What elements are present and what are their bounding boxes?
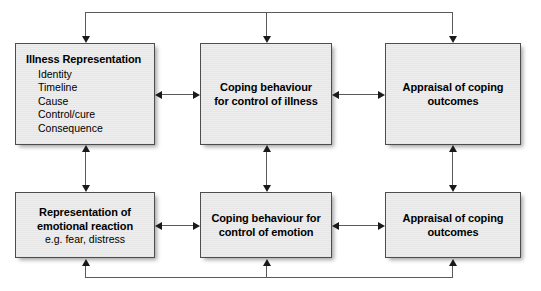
connector-illness-rep-to-coping-illness	[162, 94, 193, 95]
box-appraisal-coping-outcomes-top[interactable]: Appraisal of coping outcomes	[385, 43, 521, 145]
appraisal-top-line-1: Appraisal of coping	[403, 80, 504, 94]
top-feedback-drop-left	[85, 12, 86, 37]
coping-emotion-line-2: control of emotion	[219, 225, 314, 239]
coping-illness-line-2: for control of illness	[214, 94, 318, 108]
list-item: Identity	[38, 68, 103, 81]
arrow-right-coping-emotion-appraisal-bottom	[378, 222, 385, 230]
arrow-down-coping-illness-coping-emotion	[263, 185, 271, 192]
top-feedback-bus-riser-right	[452, 12, 453, 34]
bottom-feedback-rise-middle	[266, 266, 267, 278]
arrow-up-coping-illness-coping-emotion	[263, 145, 271, 152]
arrow-down-illness-rep-emotional-rep	[82, 185, 90, 192]
connector-coping-emotion-to-appraisal-bottom	[339, 225, 378, 226]
appraisal-bottom-line-2: outcomes	[427, 225, 478, 239]
bottom-feedback-bus-riser-right	[452, 265, 453, 278]
arrow-down-appraisal-top-bottom	[449, 185, 457, 192]
list-item: Control/cure	[38, 108, 103, 121]
arrow-left-emotional-rep-coping-emotion	[155, 222, 162, 230]
connector-coping-illness-to-coping-emotion	[266, 152, 267, 185]
connector-coping-illness-to-appraisal-top	[339, 94, 378, 95]
arrow-right-emotional-rep-coping-emotion	[193, 222, 200, 230]
bottom-feedback-arrow-into-emotional-rep	[82, 259, 90, 266]
arrow-left-illness-rep-coping-illness	[155, 91, 162, 99]
arrow-up-appraisal-top-bottom	[449, 145, 457, 152]
connector-emotional-rep-to-coping-emotion	[162, 225, 193, 226]
bottom-feedback-rise-left	[85, 266, 86, 278]
diagram-canvas: Illness Representation Identity Timeline…	[0, 0, 541, 291]
emotional-reaction-line-2: emotional reaction	[37, 219, 133, 233]
connector-illness-rep-to-emotional-rep	[85, 152, 86, 185]
box-representation-emotional-reaction[interactable]: Representation of emotional reaction e.g…	[15, 192, 155, 258]
top-feedback-arrow-into-illness-representation	[82, 36, 90, 43]
arrow-up-illness-rep-emotional-rep	[82, 145, 90, 152]
list-item: Timeline	[38, 81, 103, 94]
arrow-left-coping-illness-appraisal-top	[332, 91, 339, 99]
box-coping-behaviour-emotion[interactable]: Coping behaviour for control of emotion	[200, 192, 332, 258]
bottom-feedback-arrow-into-appraisal-bottom	[449, 259, 457, 266]
top-feedback-drop-middle	[266, 12, 267, 37]
top-feedback-arrow-into-coping-illness	[263, 36, 271, 43]
appraisal-bottom-line-1: Appraisal of coping	[403, 211, 504, 225]
illness-representation-title: Illness Representation	[16, 53, 141, 66]
box-appraisal-coping-outcomes-bottom[interactable]: Appraisal of coping outcomes	[385, 192, 521, 258]
list-item: Consequence	[38, 122, 103, 135]
connector-appraisal-top-to-appraisal-bottom	[452, 152, 453, 185]
arrow-right-illness-rep-coping-illness	[193, 91, 200, 99]
arrow-right-coping-illness-appraisal-top	[378, 91, 385, 99]
bottom-feedback-arrow-into-coping-emotion	[263, 259, 271, 266]
arrow-left-coping-emotion-appraisal-bottom	[332, 222, 339, 230]
emotional-reaction-line-1: Representation of	[39, 205, 131, 219]
coping-emotion-line-1: Coping behaviour for	[211, 211, 320, 225]
box-illness-representation[interactable]: Illness Representation Identity Timeline…	[15, 43, 155, 145]
appraisal-top-line-2: outcomes	[427, 94, 478, 108]
coping-illness-line-1: Coping behaviour	[220, 80, 312, 94]
bottom-feedback-bus-horizontal	[85, 277, 453, 278]
illness-representation-list: Identity Timeline Cause Control/cure Con…	[16, 68, 103, 135]
top-feedback-bus-horizontal	[85, 12, 453, 13]
box-coping-behaviour-illness[interactable]: Coping behaviour for control of illness	[200, 43, 332, 145]
list-item: Cause	[38, 95, 103, 108]
top-feedback-arrow-into-appraisal-top	[449, 36, 457, 43]
emotional-reaction-example: e.g. fear, distress	[45, 233, 125, 246]
